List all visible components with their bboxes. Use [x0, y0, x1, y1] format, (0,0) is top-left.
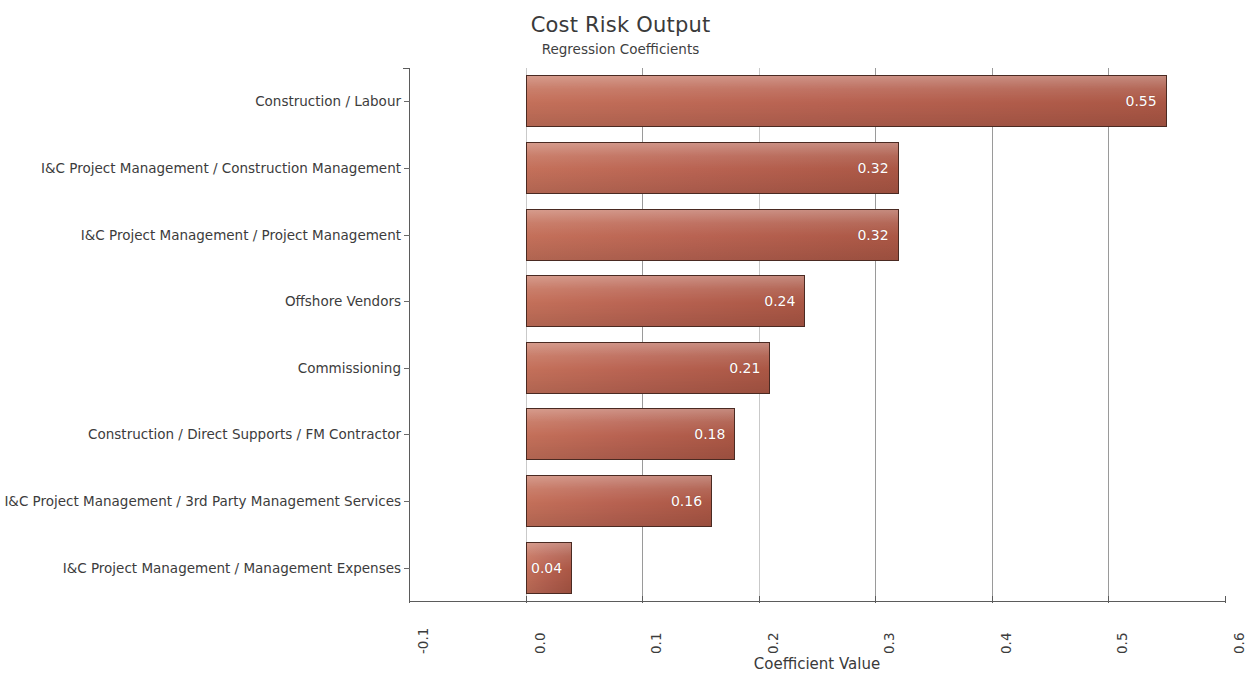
bar[interactable]: 0.55 — [526, 75, 1167, 127]
x-axis-tick-mark — [642, 596, 643, 603]
y-axis-tick-label: Construction / Direct Supports / FM Cont… — [0, 426, 401, 442]
x-axis-tick-mark — [409, 596, 410, 603]
x-axis-tick-label: 0.2 — [765, 633, 781, 654]
bar-value-label: 0.24 — [764, 293, 804, 309]
x-axis-line — [409, 601, 1225, 602]
bar-value-label: 0.55 — [1126, 93, 1166, 109]
x-axis-tick-label: 0.1 — [648, 633, 664, 654]
x-axis-tick-label: 0.0 — [532, 633, 548, 654]
bar[interactable]: 0.04 — [526, 542, 573, 594]
y-axis-tick-mark — [404, 434, 410, 435]
y-axis-tick-mark — [404, 501, 410, 502]
y-axis-tick-mark — [404, 168, 410, 169]
x-axis-tick-label: 0.5 — [1114, 633, 1130, 654]
x-axis-tick-mark — [992, 596, 993, 603]
y-axis-tick-label: Commissioning — [0, 360, 401, 376]
x-axis-tick-mark — [875, 596, 876, 603]
x-axis-tick-mark — [526, 596, 527, 603]
bar[interactable]: 0.21 — [526, 342, 771, 394]
bar-value-label: 0.18 — [694, 426, 734, 442]
plot-area: 0.550.320.320.240.210.180.160.04 — [409, 68, 1225, 601]
y-axis-tick-label: I&C Project Management / Project Managem… — [0, 227, 401, 243]
bar-value-label: 0.16 — [671, 493, 711, 509]
x-axis-tick-label: 0.4 — [998, 633, 1014, 654]
bar[interactable]: 0.32 — [526, 142, 899, 194]
x-axis-tick-mark — [1225, 596, 1226, 603]
y-axis-tick-mark — [404, 368, 410, 369]
gridline — [1108, 68, 1109, 601]
bar[interactable]: 0.24 — [526, 275, 806, 327]
y-axis-tick-label: I&C Project Management / Construction Ma… — [0, 160, 401, 176]
y-axis-tick-mark — [404, 568, 410, 569]
x-axis-tick-label: 0.6 — [1231, 633, 1247, 654]
x-axis-tick-mark — [759, 596, 760, 603]
y-axis-tick-label: I&C Project Management / 3rd Party Manag… — [0, 493, 401, 509]
y-axis-tick-mark — [404, 301, 410, 302]
y-axis-tick-label: Construction / Labour — [0, 93, 401, 109]
y-axis-tick-mark — [404, 101, 410, 102]
gridline — [992, 68, 993, 601]
y-axis-tick-mark — [404, 235, 410, 236]
bar-value-label: 0.21 — [729, 360, 769, 376]
x-axis-tick-label: 0.3 — [881, 633, 897, 654]
chart-title-block: Cost Risk Output Regression Coefficients — [0, 14, 1241, 57]
chart-subtitle: Regression Coefficients — [0, 41, 1241, 57]
x-axis-tick-mark — [1108, 596, 1109, 603]
page-title: Cost Risk Output — [0, 14, 1241, 37]
bar[interactable]: 0.16 — [526, 475, 713, 527]
y-axis-tick-label: Offshore Vendors — [0, 293, 401, 309]
bar-value-label: 0.32 — [857, 227, 897, 243]
bar-value-label: 0.32 — [857, 160, 897, 176]
y-axis-top-cap — [403, 68, 410, 69]
bar-value-label: 0.04 — [531, 560, 571, 576]
bar[interactable]: 0.18 — [526, 408, 736, 460]
bar[interactable]: 0.32 — [526, 209, 899, 261]
x-axis-tick-label: -0.1 — [415, 628, 431, 654]
y-axis-tick-label: I&C Project Management / Management Expe… — [0, 560, 401, 576]
y-axis-line — [409, 68, 410, 601]
x-axis-title: Coefficient Value — [409, 655, 1225, 673]
